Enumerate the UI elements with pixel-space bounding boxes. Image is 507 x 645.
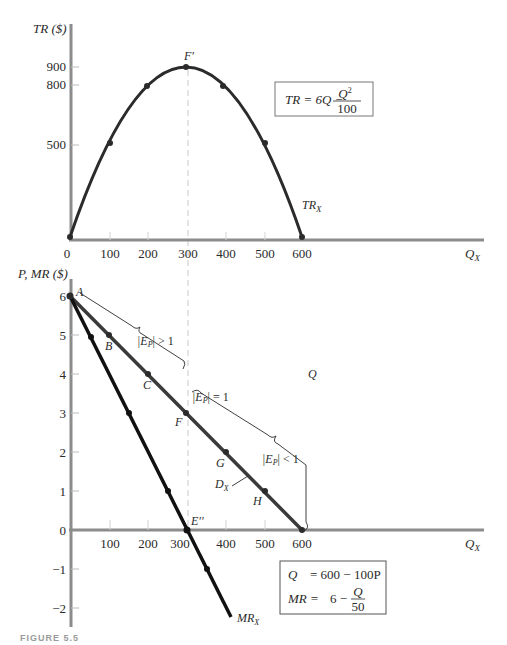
svg-text:TR = 6Q −: TR = 6Q − (285, 92, 343, 107)
bottom-y-label-5: 5 (60, 328, 67, 343)
label-inelastic: |EP| < 1 (262, 452, 299, 467)
label-point-b: B (105, 339, 113, 353)
bottom-y-label-neg1: −1 (52, 562, 66, 577)
tr-curve (70, 67, 302, 237)
label-elastic: |EP| > 1 (137, 334, 174, 349)
label-tr-x: TRX (302, 198, 322, 214)
bottom-x-label-100: 100 (100, 536, 120, 551)
bottom-x-title: QX (465, 536, 480, 553)
label-mr-x: MRX (236, 611, 260, 627)
label-demand-dx: DX (214, 477, 230, 493)
figure: 900 800 500 0 100 200 300 400 500 600 TR… (0, 0, 507, 645)
bottom-y-title: P, MR ($) (17, 266, 68, 281)
bottom-y-label-4: 4 (60, 367, 67, 382)
bottom-x-label-500: 500 (255, 536, 275, 551)
top-x-label-600: 600 (292, 246, 312, 261)
top-x-label-300: 300 (178, 246, 198, 261)
label-e-double-prime: E'' (190, 514, 204, 528)
top-x-label-100: 100 (100, 246, 120, 261)
label-unit-elastic: |EP| = 1 (192, 390, 229, 405)
bottom-y-label-neg2: −2 (52, 601, 66, 616)
svg-text:100: 100 (337, 101, 357, 116)
bottom-y-label-2: 2 (60, 445, 67, 460)
bottom-y-label-1: 1 (60, 484, 67, 499)
bottom-x-label-400: 400 (216, 536, 236, 551)
top-y-label-900: 900 (47, 59, 67, 74)
svg-text:50: 50 (352, 599, 365, 614)
bottom-x-label-300: 300 (170, 536, 190, 551)
top-x-title: QX (465, 246, 480, 263)
svg-text:Q: Q (353, 584, 363, 599)
bottom-y-label-3: 3 (60, 406, 67, 421)
top-x-label-0: 0 (64, 246, 71, 261)
svg-text:MR =: MR = (287, 591, 319, 606)
tr-equation-box: TR = 6Q − Q2 100 (275, 82, 373, 116)
top-panel: 900 800 500 0 100 200 300 400 500 600 TR… (33, 21, 484, 528)
top-x-label-400: 400 (216, 246, 236, 261)
top-y-label-800: 800 (47, 77, 67, 92)
bottom-x-label-200: 200 (138, 536, 158, 551)
demand-mr-equation-box: Q = 600 − 100P MR = 6 − Q 50 (280, 561, 386, 614)
top-y-title: TR ($) (33, 21, 67, 36)
top-x-label-500: 500 (255, 246, 275, 261)
bottom-y-label-6: 6 (60, 289, 67, 304)
label-point-c: C (143, 378, 152, 392)
elasticity-brackets (80, 293, 308, 532)
svg-text:6 −: 6 − (330, 591, 347, 606)
svg-text:Q: Q (288, 567, 298, 582)
top-x-label-200: 200 (138, 246, 158, 261)
dx-leader-line (232, 476, 248, 486)
label-point-f: F (174, 415, 183, 429)
bottom-y-label-0: 0 (60, 523, 67, 538)
figure-caption: FIGURE 5.5 (20, 633, 79, 643)
bottom-x-label-600: 600 (292, 536, 312, 551)
label-point-h: H (252, 494, 263, 508)
bottom-panel: 6 5 4 3 2 1 0 −1 −2 100 200 300 400 500 … (17, 266, 484, 627)
label-q-floating: Q (308, 367, 317, 381)
label-point-g: G (216, 456, 225, 470)
label-f-prime: F' (183, 49, 194, 63)
label-point-a: A (75, 285, 84, 299)
top-y-label-500: 500 (47, 137, 67, 152)
svg-text:= 600 − 100P: = 600 − 100P (310, 567, 381, 582)
